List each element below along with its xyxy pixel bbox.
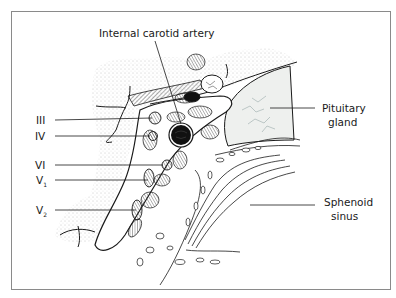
label-cn-IV: IV xyxy=(35,130,45,142)
label-cn-III: III xyxy=(36,114,45,126)
label-sphenoid-line1: Sphenoid xyxy=(324,196,373,208)
label-cn-V1-sub: 1 xyxy=(43,181,47,188)
anatomy-illustration xyxy=(0,0,396,298)
nerve-VI xyxy=(162,160,172,170)
internal-carotid-artery xyxy=(169,123,193,147)
label-pituitary-line2: gland xyxy=(328,116,357,128)
label-cn-V2: V2 xyxy=(36,204,47,221)
label-cn-VI: VI xyxy=(35,159,45,171)
label-pituitary-line1: Pituitary xyxy=(322,102,366,114)
label-internal-carotid-artery: Internal carotid artery xyxy=(99,27,214,39)
label-sphenoid-line2: sinus xyxy=(331,210,358,222)
label-cn-V2-sub: 2 xyxy=(43,211,47,218)
label-cn-V1: V1 xyxy=(36,174,47,191)
nerve-V1 xyxy=(144,169,154,187)
